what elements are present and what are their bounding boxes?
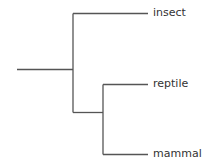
leaf-label-reptile: reptile <box>153 78 188 90</box>
leaf-label-mammal: mammal <box>153 148 202 160</box>
leaf-label-insect: insect <box>153 7 186 19</box>
